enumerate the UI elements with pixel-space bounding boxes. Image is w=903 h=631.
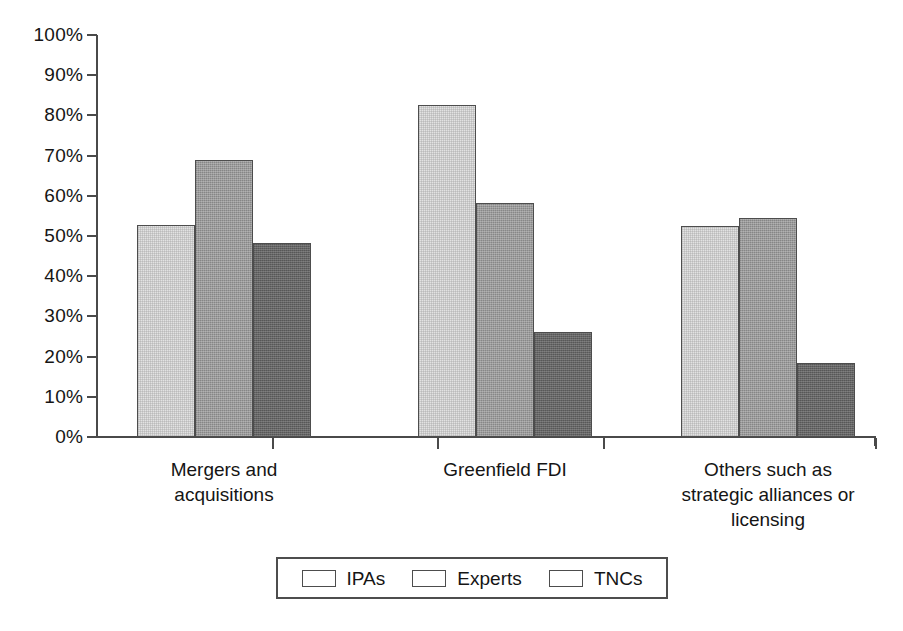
legend-item-tncs[interactable]: TNCs: [549, 569, 643, 588]
y-axis-tick-label: 30%: [0, 306, 83, 325]
x-axis-category-label-line: licensing: [618, 507, 903, 532]
y-axis-tick-label-text: 30%: [11, 306, 83, 325]
y-axis-tick-label: 60%: [0, 186, 83, 205]
legend-label: Experts: [457, 569, 521, 588]
y-axis-tick-label: 40%: [0, 266, 83, 285]
legend-swatch-tncs-icon: [549, 570, 583, 587]
x-axis-category-label-line: Mergers and: [74, 457, 374, 482]
y-axis-tick-label-text: 90%: [11, 65, 83, 84]
y-axis-tick-label: 70%: [0, 146, 83, 165]
bar-tncs-group-3: [797, 363, 855, 437]
y-axis-tick-label-text: 40%: [11, 266, 83, 285]
y-axis-tick-label: 90%: [0, 65, 83, 84]
x-axis-category-label: Others such asstrategic alliances orlice…: [618, 457, 903, 532]
y-axis-tick-label: 100%: [0, 25, 83, 44]
legend-item-experts[interactable]: Experts: [412, 569, 521, 588]
y-axis-tick-label: 0%: [0, 427, 83, 446]
y-axis-tick-label-text: 10%: [11, 387, 83, 406]
x-axis-category-label-line: Greenfield FDI: [355, 457, 655, 482]
y-axis-tick-label-text: 80%: [11, 105, 83, 124]
y-axis-tick-label-text: 60%: [11, 186, 83, 205]
bar-ipas-group-1: [137, 225, 195, 437]
x-axis-category-label-line: Others such as: [618, 457, 903, 482]
x-axis-tick: [437, 438, 439, 449]
bar-ipas-group-2: [418, 105, 476, 437]
x-axis-category-label: Greenfield FDI: [355, 457, 655, 482]
bar-experts-group-2: [476, 203, 534, 437]
legend: IPAsExpertsTNCs: [276, 557, 668, 599]
x-axis-tick: [603, 438, 605, 449]
y-axis-tick-label-text: 20%: [11, 347, 83, 366]
legend-label: TNCs: [594, 569, 643, 588]
x-axis-category-label-line: acquisitions: [74, 482, 374, 507]
bar-experts-group-3: [739, 218, 797, 437]
y-axis-tick-label-text: 0%: [11, 427, 83, 446]
bar-ipas-group-3: [681, 226, 739, 437]
y-axis-tick-label: 20%: [0, 347, 83, 366]
x-axis-tick: [272, 438, 274, 449]
bar-tncs-group-1: [253, 243, 311, 437]
bar-experts-group-1: [195, 160, 253, 437]
y-axis-tick-label: 80%: [0, 105, 83, 124]
x-axis-category-label: Mergers andacquisitions: [74, 457, 374, 507]
plot-area: [97, 35, 875, 437]
y-axis-tick-label-text: 100%: [11, 25, 83, 44]
y-axis-tick-label: 50%: [0, 226, 83, 245]
legend-swatch-experts-icon: [412, 570, 446, 587]
legend-label: IPAs: [347, 569, 386, 588]
x-axis-category-label-line: strategic alliances or: [618, 482, 903, 507]
legend-swatch-ipas-icon: [302, 570, 336, 587]
y-axis-tick-label-text: 50%: [11, 226, 83, 245]
y-axis-tick-label: 10%: [0, 387, 83, 406]
legend-item-ipas[interactable]: IPAs: [302, 569, 386, 588]
x-axis-tick: [875, 438, 877, 449]
y-axis-tick-label-text: 70%: [11, 146, 83, 165]
bar-chart: 100%90%80%70%60%50%40%30%20%10%0% Merger…: [0, 0, 903, 631]
bar-tncs-group-2: [534, 332, 592, 437]
